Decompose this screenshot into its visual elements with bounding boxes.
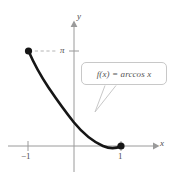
callout-leader-line-secondary [95,86,116,113]
y-axis-label: y [77,12,81,21]
callout-leader-line [95,86,105,113]
arccos-graph-figure: y x −1 1 π f(x) = arccos x [0,0,171,186]
endpoint-dot-left [25,47,32,54]
endpoint-dot-right [117,142,124,149]
tick-label-negative-one: −1 [21,152,31,161]
y-axis-arrowhead [71,21,78,28]
tick-label-pi: π [60,46,65,55]
x-axis-arrowhead [153,143,160,150]
function-callout-label: f(x) = arccos x [97,69,151,79]
page-bottom-fragment [0,176,171,186]
x-axis-label: x [160,139,164,148]
tick-label-positive-one: 1 [118,152,123,161]
function-callout-box: f(x) = arccos x [81,62,167,85]
